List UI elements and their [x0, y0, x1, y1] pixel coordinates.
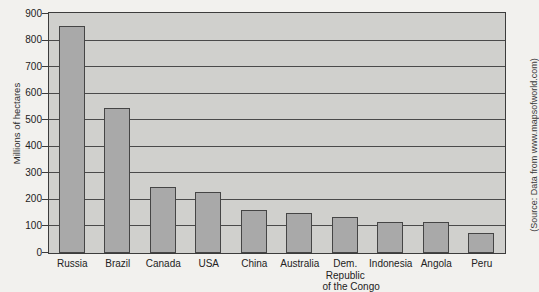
x-axis-tick-label: Brazil	[95, 258, 141, 270]
bar[interactable]	[195, 192, 221, 253]
bar-slot	[95, 13, 141, 253]
bar-slot	[368, 13, 414, 253]
bar-slot	[277, 13, 323, 253]
bar[interactable]	[468, 233, 494, 253]
y-axis-tick	[42, 66, 49, 67]
y-axis-tick-label: 800	[2, 35, 42, 45]
x-axis-tick-label: China	[232, 258, 278, 270]
x-axis-tick-label: USA	[186, 258, 232, 270]
bar-slot	[413, 13, 459, 253]
y-axis-tick-label: 0	[2, 248, 42, 258]
x-axis-tick-label: Australia	[277, 258, 323, 270]
y-axis-tick-label: 100	[2, 221, 42, 231]
y-axis-tick	[42, 252, 49, 253]
y-axis-tick	[42, 13, 49, 14]
bar-slot	[231, 13, 277, 253]
bar[interactable]	[59, 26, 85, 253]
y-axis-tick-label: 900	[2, 9, 42, 19]
bar-slot	[49, 13, 95, 253]
y-axis-tick-label: 600	[2, 88, 42, 98]
bar-slot	[322, 13, 368, 253]
bar-slot	[186, 13, 232, 253]
y-axis-tick-label: 200	[2, 194, 42, 204]
plot-area	[48, 12, 506, 254]
bar[interactable]	[377, 222, 403, 253]
bar[interactable]	[423, 222, 449, 253]
x-axis-tick-label: Peru	[459, 258, 505, 270]
x-axis-tick-label: Russia	[50, 258, 96, 270]
x-axis-tick-label: Angola	[414, 258, 460, 270]
y-axis-tick	[42, 40, 49, 41]
source-note: (Source: Data from www.mapsofworld.com)	[529, 9, 539, 281]
bar[interactable]	[241, 210, 267, 253]
bar-slot	[140, 13, 186, 253]
x-axis-tick-label: Indonesia	[368, 258, 414, 270]
y-axis-tick	[42, 225, 49, 226]
bar[interactable]	[332, 217, 358, 253]
y-axis-tick	[42, 172, 49, 173]
y-axis-tick-label: 700	[2, 62, 42, 72]
x-axis-tick-label: Canada	[141, 258, 187, 270]
x-axis-tick-label: Dem.Republicof the Congo	[323, 258, 369, 292]
y-axis-tick	[42, 146, 49, 147]
bar[interactable]	[286, 213, 312, 253]
bar-slot	[459, 13, 505, 253]
y-axis-tick	[42, 199, 49, 200]
y-axis-tick-label: 500	[2, 115, 42, 125]
y-axis-tick	[42, 93, 49, 94]
bar[interactable]	[104, 108, 130, 253]
bars-group	[49, 13, 505, 253]
bar[interactable]	[150, 187, 176, 253]
y-axis-tick-label: 300	[2, 168, 42, 178]
y-axis-tick-label: 400	[2, 141, 42, 151]
y-axis-tick	[42, 119, 49, 120]
